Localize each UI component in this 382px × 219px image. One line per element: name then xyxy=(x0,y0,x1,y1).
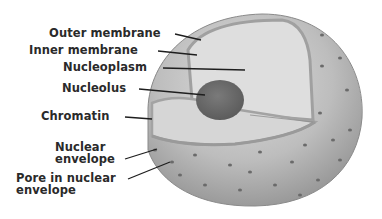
label-pore-line2: envelope xyxy=(16,184,76,197)
label-nucleolus: Nucleolus xyxy=(62,82,126,95)
nucleolus-body xyxy=(196,80,244,120)
nucleus-diagram: Outer membrane Inner membrane Nucleoplas… xyxy=(0,0,382,219)
label-nucleoplasm: Nucleoplasm xyxy=(63,61,147,74)
label-nuclear-envelope-line2: envelope xyxy=(55,153,115,166)
label-inner-membrane: Inner membrane xyxy=(29,44,138,57)
label-chromatin: Chromatin xyxy=(41,110,109,123)
label-outer-membrane: Outer membrane xyxy=(49,27,161,40)
